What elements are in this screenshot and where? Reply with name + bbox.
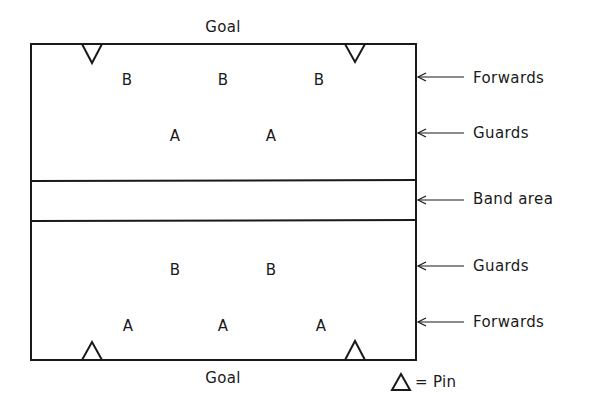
player-bottom-guard-1: B [170, 263, 180, 278]
side-label-forwards-bottom: Forwards [473, 315, 544, 330]
player-bottom-forward-2: A [218, 319, 228, 334]
player-top-forward-3: B [314, 73, 324, 88]
side-label-guards-bottom: Guards [473, 259, 529, 274]
arrow-icon-guards-top [418, 129, 464, 137]
legend: = Pin [390, 370, 456, 394]
pin-icon-bottom-right [345, 341, 365, 360]
player-top-guard-2: A [266, 129, 276, 144]
court-diagram: Goal Goal B B B A A B B A A A Forwards G… [0, 0, 591, 410]
player-top-forward-1: B [122, 73, 132, 88]
pin-icon-top-right [345, 44, 365, 62]
player-top-forward-2: B [218, 73, 228, 88]
arrow-icon-band-area [418, 196, 464, 204]
player-bottom-guard-2: B [266, 263, 276, 278]
goal-label-top: Goal [205, 20, 240, 35]
pin-icon-top-left [82, 44, 102, 63]
arrow-icon-guards-bottom [418, 262, 464, 270]
court-boundary [31, 44, 416, 360]
arrow-icon-forwards-bottom [418, 318, 464, 326]
band-line-bottom [31, 220, 416, 221]
side-label-forwards-top: Forwards [473, 71, 544, 86]
legend-text: = Pin [415, 373, 456, 391]
pin-icon-legend [390, 372, 412, 392]
pin-icon-bottom-left [82, 342, 102, 360]
arrow-icon-forwards-top [418, 73, 464, 81]
player-bottom-forward-1: A [123, 319, 133, 334]
goal-label-bottom: Goal [205, 371, 240, 386]
player-top-guard-1: A [170, 129, 180, 144]
band-line-top [31, 180, 416, 181]
player-bottom-forward-3: A [316, 319, 326, 334]
side-label-guards-top: Guards [473, 126, 529, 141]
side-label-band-area: Band area [473, 192, 553, 207]
